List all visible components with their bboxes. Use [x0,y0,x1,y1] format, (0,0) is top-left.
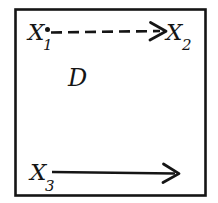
region-d-diagram: X 1 X 2 D X 3 [0,0,218,203]
arrow-x1-x2-shaft [51,31,160,33]
node-x1: X 1 [26,19,53,54]
node-x3: X 3 [28,159,55,195]
figure-canvas: X 1 X 2 D X 3 [0,0,218,203]
arrow-x3-shaft [52,172,175,174]
region-label-d: D [67,64,87,92]
node-x2: X 2 [164,19,192,54]
node-x3-subscript: 3 [45,177,55,195]
node-x2-base: X [164,19,184,45]
node-x1-subscript: 1 [43,36,53,54]
point-marker-x1-icon [45,27,50,32]
arrow-x3 [52,164,179,183]
node-x2-subscript: 2 [181,36,192,54]
arrow-x1-x2 [51,23,166,41]
